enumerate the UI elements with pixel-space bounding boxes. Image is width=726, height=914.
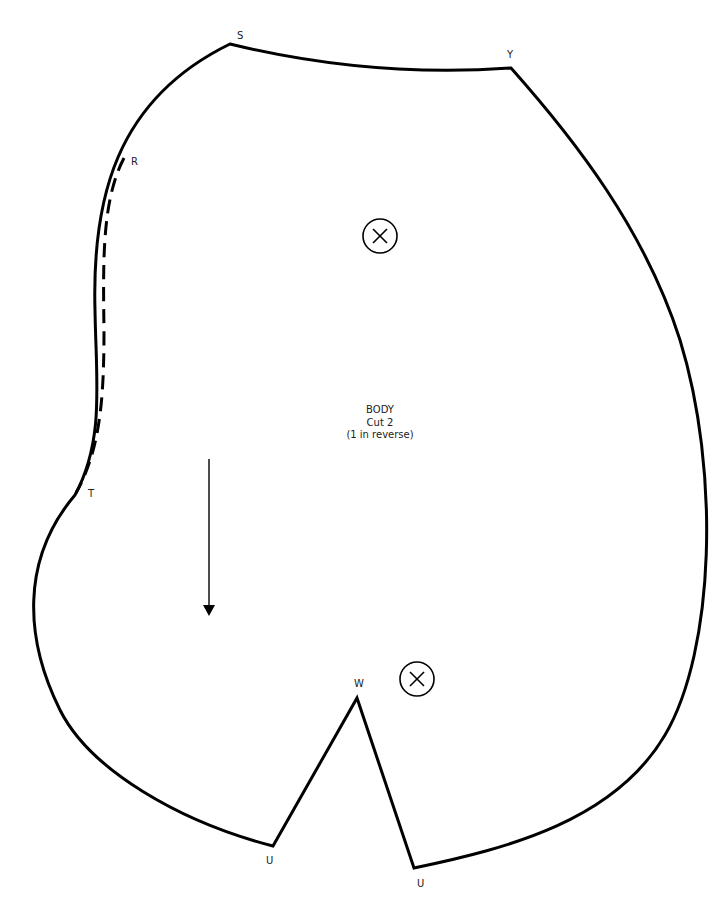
reverse-note: (1 in reverse) — [320, 429, 440, 442]
grainline-arrow-head-icon — [203, 605, 215, 616]
point-label-r: R — [131, 157, 138, 167]
circled-x-lower-icon — [400, 662, 434, 696]
pattern-canvas — [0, 0, 726, 914]
opening-dashed-line — [76, 158, 124, 493]
point-label-u-right: U — [417, 879, 424, 889]
cut-instruction: Cut 2 — [320, 417, 440, 430]
point-label-w: W — [354, 679, 364, 689]
point-label-y: Y — [507, 50, 513, 60]
pattern-outline — [34, 44, 707, 868]
circled-x-upper-icon — [363, 219, 397, 253]
point-label-u-left: U — [266, 856, 273, 866]
pattern-piece-info: BODY Cut 2 (1 in reverse) — [320, 404, 440, 442]
point-label-t: T — [88, 489, 94, 499]
pattern-piece-name: BODY — [320, 404, 440, 417]
point-label-s: S — [237, 31, 243, 41]
